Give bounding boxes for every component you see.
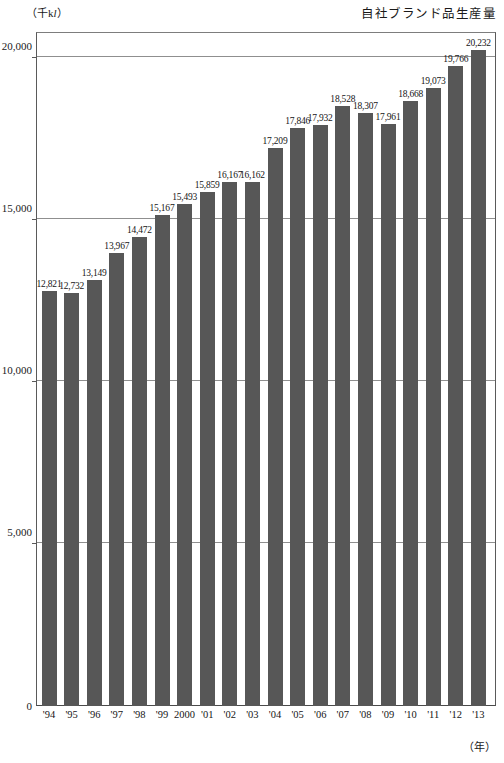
plot-area [36,32,496,706]
x-tick-label: '97 [111,709,123,720]
chart-title: 自社ブランド品生産量 [361,3,496,22]
chart-header: （千kl） 自社ブランド品生産量 [0,0,504,28]
x-tick-label: '12 [450,709,462,720]
x-tick-label: '06 [314,709,326,720]
gridline-15000 [37,218,495,219]
x-tick-label: '99 [156,709,168,720]
x-tick-label: '02 [224,709,236,720]
x-tick-label: '98 [133,709,145,720]
x-tick-label: '94 [43,709,55,720]
x-tick-label: '04 [269,709,281,720]
y-axis-zero-label: 0 [0,700,32,712]
x-axis-title: （年） [463,738,496,754]
x-tick-label: 2000 [174,709,195,720]
unit-suffix: ） [57,7,68,19]
gridline-10000 [37,380,495,381]
x-tick-label: '08 [359,709,371,720]
x-tick-label: '03 [246,709,258,720]
x-tick-label: '96 [88,709,100,720]
x-tick-label: '07 [337,709,349,720]
x-tick-label: '10 [404,709,416,720]
gridline-20000 [37,56,495,57]
gridline-5000 [37,542,495,543]
y-axis-unit-label: （千kl） [26,4,68,20]
y-axis-ticks [0,32,36,706]
x-tick-label: '11 [427,709,439,720]
x-axis-labels: '94'95'96'97'98'992000'01'02'03'04'05'06… [36,709,496,729]
x-tick-label: '09 [382,709,394,720]
x-tick-label: '95 [65,709,77,720]
x-tick-label: '13 [472,709,484,720]
x-tick-label: '01 [201,709,213,720]
x-tick-label: '05 [291,709,303,720]
unit-prefix: （千k [26,7,54,19]
